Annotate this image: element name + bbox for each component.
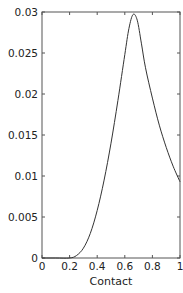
y-tick-label: 0.03 (15, 6, 38, 18)
x-tick-label: 0.4 (89, 260, 106, 272)
chart: 00.0050.010.0150.020.0250.03 00.20.40.60… (0, 0, 183, 293)
x-tick-label: 1 (177, 260, 183, 272)
y-tick-label: 0.02 (15, 88, 38, 100)
y-tick-label: 0.005 (8, 211, 38, 223)
x-tick-label: 0.2 (61, 260, 78, 272)
x-tick-label: 0 (39, 260, 46, 272)
y-tick-label: 0.025 (8, 47, 38, 59)
x-tick-label: 0.6 (116, 260, 133, 272)
y-tick-label: 0 (31, 252, 38, 264)
y-tick-label: 0.01 (15, 170, 38, 182)
plot-area (42, 12, 180, 258)
x-axis-label: Contact (90, 275, 133, 288)
x-tick-label: 0.8 (144, 260, 161, 272)
y-tick-label: 0.015 (8, 129, 38, 141)
